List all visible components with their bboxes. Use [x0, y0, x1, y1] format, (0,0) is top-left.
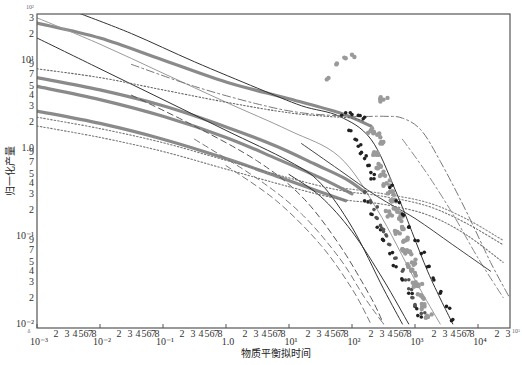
x-minor-tick-label: 2 [305, 328, 310, 339]
y-minor-tick-label: 5 [29, 80, 34, 91]
scatter-field-data-black-line [388, 183, 455, 322]
x-minor-tick-label: 4 [72, 328, 77, 339]
x-minor-tick-label: 2 [116, 328, 121, 339]
y-minor-tick-label: 5 [29, 256, 34, 267]
x-major-tick-label: 10¹ [285, 336, 298, 347]
y-minor-tick-label: 2 [29, 28, 34, 39]
x-minor-tick-label: 4 [135, 328, 140, 339]
y-minor-tick-label: 3 [29, 276, 34, 287]
y-minor-tick-label: 7 [29, 156, 34, 167]
curve-dashed-2 [195, 139, 384, 324]
x-minor-tick-label: 3 [254, 328, 259, 339]
x-minor-tick-label: 3 [506, 328, 511, 339]
x-major-tick-label: 10³ [411, 336, 424, 347]
curve-dash-dot-plateau [132, 64, 510, 297]
x-minor-tick-label: 4 [387, 328, 392, 339]
plot-area [37, 12, 510, 324]
x-major-tick-label: 1.0 [222, 336, 235, 347]
y-major-tick-label: 10¹ [21, 54, 34, 65]
y-major-tick-label: 1.0 [22, 142, 35, 153]
x-major-tick-label: 10⁴ [473, 336, 487, 347]
x-major-tick-label: 10⁻² [93, 336, 111, 347]
y-minor-tick-label: 3 [29, 188, 34, 199]
y-minor-tick-label: 5 [29, 168, 34, 179]
x-major-tick-label: 10⁻¹ [156, 336, 174, 347]
x-minor-tick-label: 3 [128, 328, 133, 339]
curve-dash-dot-long [402, 139, 503, 297]
y-minor-tick-label: 2 [29, 116, 34, 127]
x-minor-tick-label: 3 [65, 328, 70, 339]
x-minor-tick-label: 4 [450, 328, 455, 339]
x-minor-tick-label: 4 [324, 328, 329, 339]
x-minor-tick-label: 2 [368, 328, 373, 339]
curve-dotted-3 [37, 126, 503, 262]
x-major-tick-label: 10² [348, 336, 361, 347]
curve-dotted-4 [339, 188, 503, 241]
x-minor-tick-label: 2 [179, 328, 184, 339]
x-minor-tick-label: 2 [53, 328, 58, 339]
top-left-mark: 10² [26, 4, 34, 10]
y-minor-tick-label: 3 [29, 12, 34, 23]
y-major-tick-label: 10⁻¹ [16, 230, 34, 241]
plot-frame [37, 14, 510, 328]
origin-mark: δ [28, 328, 31, 334]
y-minor-tick-label: 7 [29, 244, 34, 255]
x-minor-tick-label: 3 [317, 328, 322, 339]
x-minor-tick-label: 3 [443, 328, 448, 339]
chart: 10⁻³234567810⁻²234567810⁻¹23456781.02345… [0, 0, 522, 365]
y-minor-tick-label: 3 [29, 100, 34, 111]
x-minor-tick-label: 2 [494, 328, 499, 339]
bottom-right-mark: 10⁵ [512, 328, 520, 334]
y-minor-tick-label: 7 [29, 68, 34, 79]
x-minor-tick-label: 2 [242, 328, 247, 339]
x-minor-tick-label: 3 [380, 328, 385, 339]
curve-dashed-1 [132, 95, 384, 324]
x-minor-tick-label: 3 [191, 328, 196, 339]
x-major-tick-label: 10⁻³ [30, 336, 48, 347]
y-axis-title: 归一化产量 [4, 146, 16, 196]
x-minor-tick-label: 4 [261, 328, 266, 339]
x-minor-tick-label: 4 [198, 328, 203, 339]
y-minor-tick-label: 2 [29, 292, 34, 303]
y-major-tick-label: 10⁻² [16, 318, 34, 329]
curve-thin-gray-1 [37, 18, 440, 324]
y-minor-tick-label: 2 [29, 204, 34, 215]
y-axis: 10⁻²23457910⁻¹2345791.023457910¹23 [16, 12, 34, 329]
x-axis-title: 物质平衡拟时间 [241, 347, 311, 359]
x-minor-tick-label: 2 [431, 328, 436, 339]
